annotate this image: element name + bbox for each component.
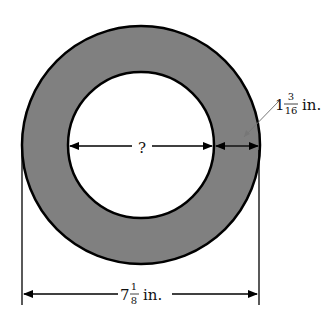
svg-text:16: 16: [285, 105, 298, 116]
svg-text:8: 8: [131, 295, 137, 306]
svg-text:1: 1: [275, 96, 285, 114]
svg-text:7: 7: [120, 286, 130, 304]
svg-text:in.: in.: [302, 96, 321, 114]
annulus-diagram: ? 1 3 16 in. 7 1 8 in.: [0, 0, 330, 326]
svg-text:1: 1: [131, 281, 137, 292]
inner-diameter-label: ?: [138, 139, 146, 157]
svg-text:in.: in.: [143, 286, 162, 304]
svg-text:3: 3: [288, 91, 294, 102]
